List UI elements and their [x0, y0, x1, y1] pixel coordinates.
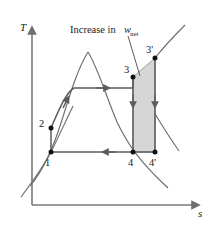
state-label-3-prime: 3'	[146, 44, 153, 55]
auxiliary-lines-group	[21, 25, 185, 197]
axes-group: T s	[20, 21, 202, 219]
increase-in-net-work-area	[133, 58, 155, 152]
state-point-3	[131, 75, 136, 80]
state-label-1: 1	[45, 157, 50, 168]
annotation-subscript: net	[130, 30, 139, 38]
state-point-4	[131, 150, 136, 155]
x-axis-label: s	[198, 207, 202, 219]
ts-diagram-figure: T s	[0, 0, 212, 228]
state-label-2: 2	[39, 118, 44, 129]
state-point-2	[49, 126, 54, 131]
state-point-1	[49, 150, 54, 155]
state-point-3-prime	[153, 56, 158, 61]
annotation-text-prefix: Increase in	[70, 24, 117, 35]
isobar-line-upper-right	[155, 25, 185, 58]
state-label-3: 3	[124, 64, 129, 75]
y-axis-label: T	[20, 21, 27, 33]
state-label-4-prime: 4'	[149, 157, 156, 168]
isentropic-line-upper-left	[51, 106, 73, 152]
annotation-leader-line	[128, 36, 140, 76]
state-label-4: 4	[128, 157, 134, 168]
state-point-4-prime	[153, 150, 158, 155]
